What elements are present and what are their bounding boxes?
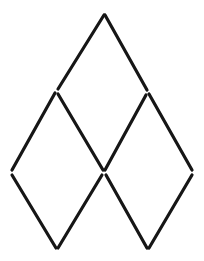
edge-center-to-bottom-left xyxy=(58,175,102,248)
diamond-lattice-drawing xyxy=(0,0,204,261)
edge-upper-right-to-far-right xyxy=(149,94,192,170)
edge-apex-to-upper-left xyxy=(58,15,104,89)
edge-apex-to-upper-right xyxy=(105,15,147,90)
edge-upper-left-to-center xyxy=(58,94,103,170)
figure-canvas xyxy=(0,0,204,261)
edge-center-to-bottom-right xyxy=(106,175,147,248)
edge-far-left-to-bottom-left xyxy=(12,175,56,248)
edge-upper-right-to-center xyxy=(105,95,146,170)
lattice-edge-group xyxy=(12,15,192,248)
edge-far-right-to-bottom-right xyxy=(149,175,192,248)
edge-upper-left-to-far-left xyxy=(12,93,55,170)
